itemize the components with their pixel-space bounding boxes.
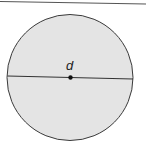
diagram-canvas: d [0, 0, 146, 142]
center-point [68, 75, 72, 79]
diameter-label: d [66, 58, 74, 73]
top-rule [0, 2, 146, 5]
